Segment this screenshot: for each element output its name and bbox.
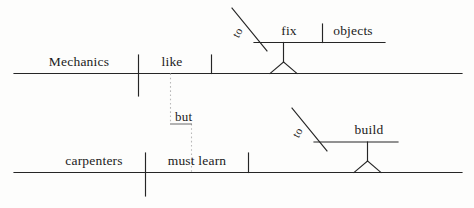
word-fix: fix	[281, 24, 297, 38]
bottom-infinitive-leg-left	[354, 161, 368, 173]
word-must-learn: must learn	[168, 154, 227, 168]
sentence-diagram: Mechanics like to fix objects but carpen…	[0, 0, 474, 208]
word-build: build	[355, 123, 384, 137]
bottom-infinitive-leg-right	[368, 161, 382, 173]
word-carpenters: carpenters	[65, 154, 122, 168]
top-infinitive-leg-right	[284, 62, 298, 74]
word-like: like	[161, 55, 182, 69]
top-infinitive-leg-left	[270, 62, 284, 74]
word-mechanics: Mechanics	[49, 55, 109, 69]
top-infinitive-lines	[232, 8, 385, 74]
word-objects: objects	[333, 24, 373, 38]
bottom-infinitive-lines	[292, 108, 398, 173]
word-but-conjunction: but	[175, 110, 192, 123]
